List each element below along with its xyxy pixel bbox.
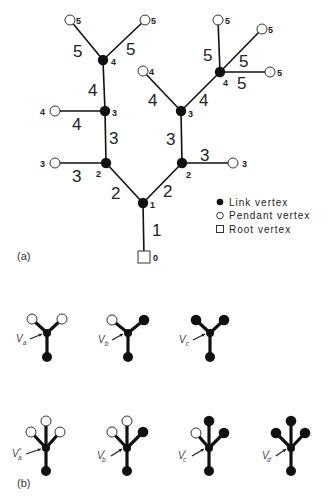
motif-base-vertex-icon [123,352,133,362]
vertex-order-label: 0 [153,253,158,263]
edge-level-label: 4 [148,91,157,110]
edge-level-label: 2 [111,184,120,203]
pendant-vertex-icon [107,427,117,437]
root-vertex-legend-icon [217,226,224,233]
tree-figure: 1223333444455555 01223344334455555 Link … [0,0,329,500]
link-vertex-icon [138,198,148,208]
legend-link-label: Link vertex [229,197,288,208]
tree-edge [181,111,182,163]
motif-label: V′d [262,449,271,463]
pendant-vertex-icon [26,427,36,437]
motif-c: Vc [179,315,229,362]
legend-pendant-label: Pendant vertex [229,210,310,221]
link-vertex-icon [286,416,297,427]
pendant-vertex-icon [122,416,132,426]
vertex-order-label: 3 [40,159,45,169]
pendant-vertex-icon [50,158,60,168]
motif-base-vertex-icon [286,466,296,476]
link-vertex-icon [219,428,230,439]
edge-level-label: 3 [72,167,81,186]
link-vertex-icon [98,55,108,65]
pendant-vertex-icon [65,15,75,25]
pendant-vertex-icon [191,428,201,438]
link-vertex-icon [177,158,187,168]
panel-a-label: (a) [17,250,30,262]
root-vertex-icon [138,251,150,263]
vertex-order-label: 3 [112,108,117,118]
link-vertex-legend-icon [217,199,224,206]
legend-root-label: Root vertex [229,224,291,235]
tree-edge [103,20,145,60]
pendant-vertex-icon [50,106,60,116]
vertex-order-label: 3 [242,159,247,169]
motif-base-vertex-icon [205,352,215,362]
motif-center-vertex-icon [205,444,213,452]
vertex-order-label: 3 [188,109,193,119]
link-vertex-icon [101,158,111,168]
edge-level-label: 4 [88,81,97,100]
pendant-vertex-icon [257,24,267,34]
edge-level-label: 2 [163,182,172,201]
tree-edge [218,20,220,72]
pendant-vertex-icon [228,158,238,168]
motif-center-vertex-icon [42,444,50,452]
tree-edge [103,60,105,111]
link-vertex-icon [215,67,225,77]
edge-level-label: 4 [199,91,208,110]
edge-level-label: 5 [239,52,248,71]
motif-center-vertex-icon [206,329,214,337]
vertex-order-label: 5 [151,16,156,26]
motif-list: VaVbVcV″aV′bV′cV′d [12,314,310,476]
vertex-order-label: 4 [111,57,116,67]
link-vertex-icon [176,106,186,116]
motif-a: Va [16,314,67,362]
motif-base-vertex-icon [42,352,52,362]
motif-label: V″a [12,447,22,461]
vertex-order-label: 5 [225,16,230,26]
motif-label: Vb [98,334,109,347]
pendant-vertex-legend-icon [217,212,224,219]
edge-level-label: 5 [203,46,212,65]
motif-c-prime: V′c [178,416,229,476]
edge-level-label: 5 [237,74,246,93]
pendant-vertex-icon [265,67,275,77]
panel-b-label: (b) [17,477,30,489]
motif-base-vertex-icon [204,466,214,476]
pendant-vertex-icon [41,416,51,426]
edge-level-label: 5 [126,40,135,59]
pendant-vertex-icon [55,427,65,437]
edge-level-label: 1 [152,221,161,240]
link-vertex-icon [138,427,149,438]
edge-level-label: 5 [73,42,82,61]
motif-center-vertex-icon [287,444,295,452]
vertex-order-label: 2 [96,169,101,179]
link-vertex-icon [100,106,110,116]
pendant-vertex-icon [107,315,117,325]
edge-level-label: 3 [109,129,118,148]
tree-edges [55,20,270,257]
pendant-vertex-icon [213,15,223,25]
vertex-order-label: 1 [150,200,155,210]
edge-level-label: 4 [72,115,81,134]
legend: Link vertex Pendant vertex Root vertex [217,197,311,235]
motif-label: Va [16,333,27,346]
motif-label: V′c [178,449,187,463]
motif-center-vertex-icon [124,329,132,337]
motif-center-vertex-icon [123,444,131,452]
pendant-vertex-icon [138,66,148,76]
motif-b: Vb [98,315,149,362]
tree-edge [105,111,106,163]
motif-center-vertex-icon [43,329,51,337]
vertex-order-label: 4 [40,107,45,117]
link-vertex-icon [219,315,230,326]
motif-base-vertex-icon [122,466,132,476]
vertex-order-label: 5 [76,16,81,26]
vertex-order-label: 4 [223,78,228,88]
motif-base-vertex-icon [41,466,51,476]
pendant-vertex-icon [57,314,67,324]
motif-a-prime: V″a [12,416,65,476]
pendant-vertex-icon [140,15,150,25]
vertex-order-label: 5 [268,25,273,35]
motif-d-prime: V′d [262,416,310,476]
link-vertex-icon [204,416,215,427]
